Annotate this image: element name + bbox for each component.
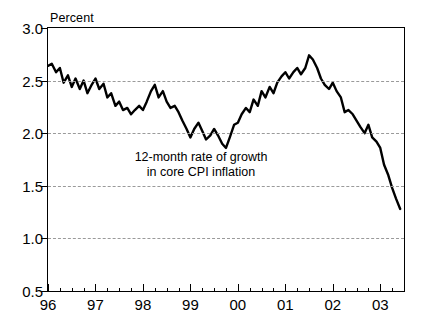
y-axis: 0.51.01.52.02.53.0: [0, 0, 43, 328]
x-axis-tick-minor: [131, 288, 132, 293]
series-annotation: 12-month rate of growth in core CPI infl…: [111, 150, 291, 180]
x-axis-tick-minor: [262, 288, 263, 293]
y-axis-tick-label: 2.5: [1, 72, 43, 89]
x-axis-tick-minor: [60, 288, 61, 293]
gridline: [48, 81, 404, 82]
x-axis-tick-minor: [119, 288, 120, 293]
x-axis-tick-minor: [273, 288, 274, 293]
x-axis-tick-label: 98: [135, 296, 152, 313]
x-axis-tick-minor: [84, 288, 85, 293]
x-axis-tick-label: 00: [230, 296, 247, 313]
annotation-line-1: 12-month rate of growth: [111, 150, 291, 165]
x-axis-tick-major: [380, 284, 381, 292]
x-axis-tick-minor: [167, 288, 168, 293]
x-axis-tick-minor: [357, 288, 358, 293]
x-axis-tick-minor: [309, 288, 310, 293]
x-axis-tick-minor: [155, 288, 156, 293]
x-axis-tick-minor: [72, 288, 73, 293]
x-axis-tick-minor: [297, 288, 298, 293]
x-axis-tick-label: 02: [324, 296, 341, 313]
annotation-line-2: in core CPI inflation: [111, 165, 291, 180]
y-axis-tick-label: 1.0: [1, 230, 43, 247]
y-axis-tick-label: 1.5: [1, 177, 43, 194]
gridline: [48, 238, 404, 239]
x-axis-tick-minor: [107, 288, 108, 293]
x-axis-tick-major: [143, 284, 144, 292]
y-axis-tick-label: 0.5: [1, 283, 43, 300]
gridline: [48, 186, 404, 187]
x-axis-tick-major: [48, 284, 49, 292]
y-axis-unit-label: Percent: [50, 11, 94, 25]
y-axis-tick-label: 2.0: [1, 125, 43, 142]
x-axis-tick-major: [333, 284, 334, 292]
y-axis-tick-label: 3.0: [1, 20, 43, 37]
x-axis-tick-minor: [226, 288, 227, 293]
x-axis-tick-minor: [345, 288, 346, 293]
x-axis-tick-major: [285, 284, 286, 292]
x-axis-tick-minor: [404, 288, 405, 293]
x-axis-tick-minor: [179, 288, 180, 293]
x-axis-tick-label: 97: [87, 296, 104, 313]
x-axis-tick-minor: [368, 288, 369, 293]
x-axis-tick-minor: [321, 288, 322, 293]
chart-container: Percent 0.51.01.52.02.53.0 9697989900010…: [0, 0, 425, 328]
x-axis-tick-major: [190, 284, 191, 292]
x-axis-tick-label: 01: [277, 296, 294, 313]
x-axis-tick-minor: [392, 288, 393, 293]
x-axis-tick-label: 03: [372, 296, 389, 313]
x-axis-tick-label: 96: [40, 296, 57, 313]
x-axis-tick-minor: [202, 288, 203, 293]
x-axis-tick-major: [95, 284, 96, 292]
x-axis-tick-minor: [214, 288, 215, 293]
x-axis-tick-label: 99: [182, 296, 199, 313]
gridline: [48, 133, 404, 134]
x-axis-tick-minor: [250, 288, 251, 293]
x-axis-tick-major: [238, 284, 239, 292]
